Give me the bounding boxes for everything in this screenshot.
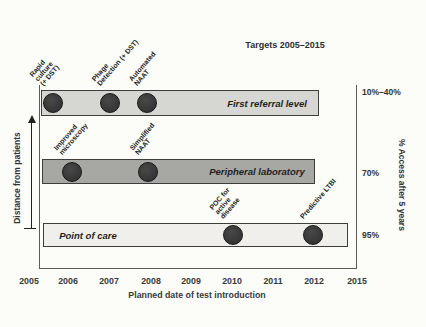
right-axis-label: % Access after 5 years [397,139,407,231]
x-tick-2009: 2009 [181,276,201,286]
x-tick-2010: 2010 [222,276,242,286]
distance-axis-arrow-line [31,122,32,228]
x-tick-2006: 2006 [58,276,78,286]
test-dot-rapid-culture-dst [43,93,63,113]
level-label-point-of-care: Point of care [59,229,117,240]
test-label-automated-naat: AutomatedNAAT [127,50,162,87]
distance-axis-arrow-base [24,228,36,229]
test-label-rapid-culture-dst: Rapidculture(+ DST) [29,55,61,87]
test-dot-automated-naat [137,93,157,113]
level-label-first-referral-level: First referral level [227,97,307,108]
level-label-peripheral-laboratory: Peripheral laboratory [209,166,305,177]
x-tick-2008: 2008 [141,276,161,286]
test-dot-improved-microscopy [62,162,82,182]
left-axis-label: Distance from patients [12,132,22,224]
x-tick-2011: 2011 [263,276,282,286]
x-tick-2012: 2012 [304,276,324,286]
test-dot-simplified-naat [138,162,158,182]
x-tick-2007: 2007 [99,276,119,286]
x-tick-2015: 2015 [347,276,367,286]
test-dot-predictive-ltbi [303,225,323,245]
access-target-peripheral-laboratory: 70% [362,168,379,178]
access-target-point-of-care: 95% [362,230,379,240]
x-tick-2005: 2005 [19,276,39,286]
test-dot-poc-for-active-disease [223,225,243,245]
test-dot-phage-detection-dst [100,93,120,113]
x-axis-title: Planned date of test introduction [128,290,265,300]
tb-diagnostics-timeline-figure: Targets 2005–2015 Distance from patients… [0,0,426,327]
figure-title: Targets 2005–2015 [245,40,324,50]
access-target-first-referral-level: 10%–40% [362,87,401,97]
